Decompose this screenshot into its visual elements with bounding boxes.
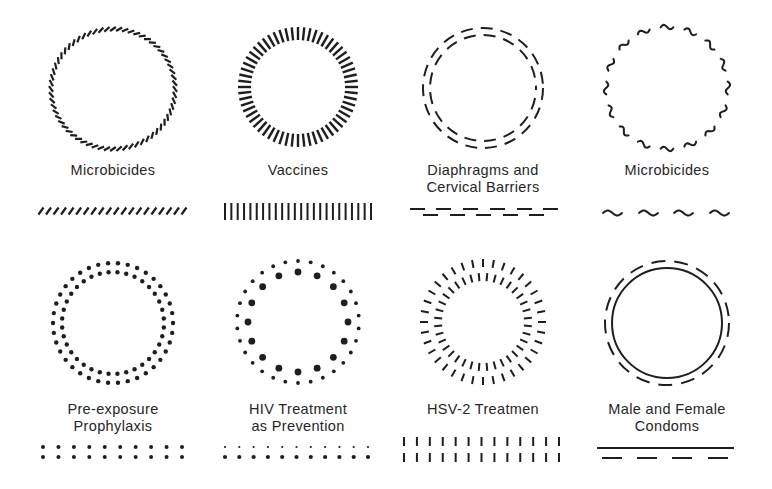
prep-pattern-swatch — [41, 445, 184, 459]
label-hiv-tasp: HIV Treatment as Prevention — [205, 401, 391, 435]
label-prep: Pre-exposure Prophylaxis — [20, 401, 206, 435]
label-hsv2: HSV-2 Treatmen — [390, 401, 576, 418]
label-line: Vaccines — [205, 162, 391, 179]
label-vaccines: Vaccines — [205, 162, 391, 179]
label-line: as Prevention — [205, 418, 391, 435]
label-line: Prophylaxis — [20, 418, 206, 435]
microbicides-hatched-ring-icon — [49, 27, 177, 151]
hiv-tasp-pattern-swatch — [223, 446, 370, 459]
microbicides-wavy-pattern-swatch — [603, 211, 729, 216]
label-line: Pre-exposure — [20, 401, 206, 418]
prep-ring-icon — [51, 261, 175, 385]
label-line: Condoms — [574, 418, 760, 435]
vaccines-pattern-swatch — [225, 203, 371, 220]
microbicides-hatched-pattern-swatch — [39, 208, 187, 215]
hsv2-pattern-swatch — [404, 437, 559, 462]
hsv2-ring-icon — [420, 259, 546, 385]
hiv-tasp-ring-icon — [235, 259, 360, 385]
microbicides-wavy-ring-icon — [604, 25, 730, 151]
label-microbicides-hatched: Microbicides — [20, 162, 206, 179]
label-line: HIV Treatment — [205, 401, 391, 418]
label-condoms: Male and Female Condoms — [574, 401, 760, 435]
label-line: Cervical Barriers — [390, 179, 576, 196]
vaccines-ring-icon — [238, 27, 358, 147]
label-line: Microbicides — [574, 162, 760, 179]
label-line: HSV-2 Treatmen — [390, 401, 576, 418]
label-line: Male and Female — [574, 401, 760, 418]
diaphragms-pattern-swatch — [410, 209, 558, 215]
label-line: Diaphragms and — [390, 162, 576, 179]
label-diaphragms: Diaphragms and Cervical Barriers — [390, 162, 576, 196]
condoms-ring-icon — [605, 261, 729, 385]
diaphragms-ring-icon — [423, 28, 543, 148]
label-line: Microbicides — [20, 162, 206, 179]
label-microbicides-wavy: Microbicides — [574, 162, 760, 179]
condoms-pattern-swatch — [597, 448, 734, 458]
